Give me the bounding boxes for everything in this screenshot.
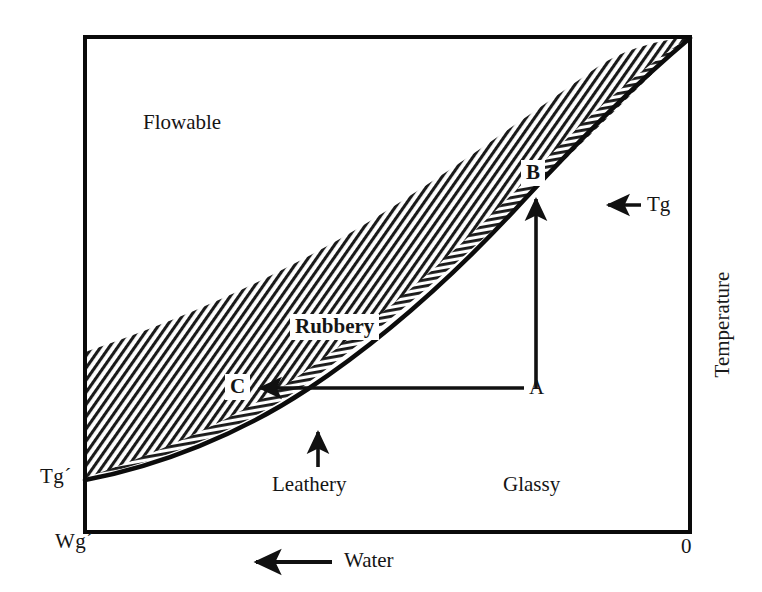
region-label-leathery: Leathery: [272, 474, 347, 495]
region-label-rubbery: Rubbery: [290, 314, 379, 340]
x-axis-tick-wg-prime: Wg´: [55, 531, 94, 552]
y-axis-tick-tg-prime: Tg´: [40, 466, 72, 487]
y-axis-title: Temperature: [710, 260, 735, 390]
point-label-c: C: [225, 374, 250, 400]
rubbery-band-hatch: [85, 37, 690, 478]
x-axis-tick-zero: 0: [681, 536, 692, 557]
region-label-glassy: Glassy: [503, 474, 560, 495]
x-axis-title: Water: [344, 550, 394, 571]
diagram-canvas: [0, 0, 762, 592]
point-label-a: A: [529, 377, 544, 398]
curve-label-tg: Tg: [647, 194, 670, 215]
point-label-b: B: [521, 160, 545, 186]
region-label-flowable: Flowable: [143, 112, 221, 133]
state-diagram-figure: Flowable Rubbery Leathery Glassy Tg B C …: [0, 0, 762, 592]
